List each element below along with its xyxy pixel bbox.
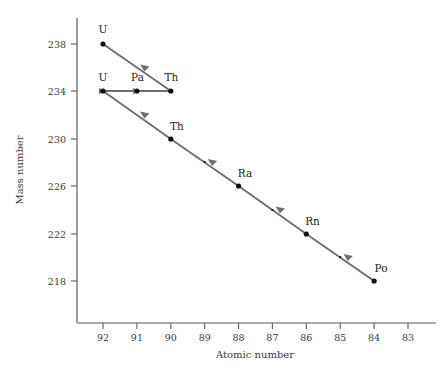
x-tick-label-90: 90 (165, 332, 177, 343)
x-axis-ticks: 92 91 90 89 88 87 86 85 84 83 (97, 323, 414, 343)
node-dot-ac228 (204, 161, 206, 163)
x-tick-label-88: 88 (233, 332, 245, 343)
node-dot-th234 (168, 88, 173, 93)
node-dot-po218 (372, 278, 377, 283)
node-label-rn222: Rn (305, 215, 320, 227)
x-tick-label-86: 86 (300, 332, 312, 343)
node-label-po218: Po (375, 262, 388, 274)
x-tick-label-92: 92 (97, 332, 109, 343)
node-label-u234: U (99, 71, 108, 83)
node-dot-at220 (339, 256, 341, 258)
node-dot-u238 (100, 41, 105, 46)
chart-canvas: 238 234 230 226 222 218 92 91 90 89 88 8… (0, 0, 448, 373)
x-tick-label-87: 87 (266, 332, 278, 343)
node-label-th234: Th (165, 71, 179, 83)
decay-series-chart: 238 234 230 226 222 218 92 91 90 89 88 8… (0, 0, 448, 373)
x-tick-label-89: 89 (199, 332, 211, 343)
node-labels: U Th Pa U Th Ra Rn Po (99, 23, 388, 274)
decay-segment-u234-th230 (103, 91, 171, 139)
y-axis-title: Mass number (14, 135, 25, 204)
y-axis-ticks: 238 234 230 226 222 218 (48, 39, 77, 287)
node-dot-pa234 (134, 88, 139, 93)
y-tick-label-238: 238 (48, 39, 66, 50)
node-dot-fr224 (271, 209, 273, 211)
y-tick-label-226: 226 (48, 181, 66, 192)
x-tick-label-85: 85 (334, 332, 346, 343)
x-tick-label-91: 91 (131, 332, 143, 343)
y-tick-label-230: 230 (48, 134, 66, 145)
y-tick-label-234: 234 (48, 86, 66, 97)
y-tick-label-218: 218 (48, 276, 66, 287)
series-alpha-238-to-234 (103, 44, 171, 91)
x-axis-title: Atomic number (215, 349, 294, 360)
node-dot-th230 (168, 136, 173, 141)
node-dot-rn222 (304, 231, 309, 236)
y-tick-label-222: 222 (48, 229, 66, 240)
node-label-ra226: Ra (238, 167, 252, 179)
node-dot-u234 (100, 88, 105, 93)
node-label-th230: Th (170, 120, 184, 132)
node-label-u238: U (99, 23, 108, 35)
decay-segment-u238-th234 (103, 44, 171, 91)
node-label-pa234: Pa (131, 71, 144, 83)
x-tick-label-84: 84 (368, 332, 380, 343)
x-tick-label-83: 83 (402, 332, 414, 343)
node-dot-ra226 (236, 183, 241, 188)
